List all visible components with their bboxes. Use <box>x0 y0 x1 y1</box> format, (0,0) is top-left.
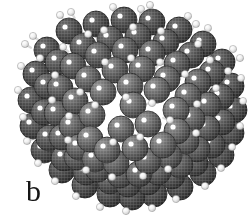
hydrogen-atom <box>239 97 246 104</box>
hydrogen-atom <box>237 74 244 81</box>
specular-highlight <box>170 124 175 129</box>
specular-highlight <box>114 122 119 127</box>
specular-highlight <box>68 94 73 99</box>
silicon-atom <box>144 77 170 103</box>
specular-highlight <box>215 55 220 60</box>
hydrogen-atom <box>157 27 164 34</box>
hydrogen-atom <box>59 43 66 50</box>
specular-highlight <box>159 35 164 40</box>
hydrogen-atom <box>192 20 199 27</box>
specular-highlight <box>184 48 189 53</box>
specular-highlight <box>89 17 94 22</box>
hydrogen-atom <box>84 30 91 37</box>
hydrogen-atom <box>192 129 199 136</box>
specular-highlight <box>91 48 96 53</box>
silicon-atom <box>135 111 161 137</box>
specular-highlight <box>24 93 29 98</box>
hydrogen-atom <box>64 136 71 143</box>
hydrogen-atom <box>137 5 144 12</box>
hydrogen-atom <box>96 203 103 210</box>
specular-highlight <box>65 119 70 124</box>
hydrogen-atom <box>23 137 30 144</box>
specular-highlight <box>96 85 101 90</box>
specular-highlight <box>145 15 150 20</box>
figure-panel-b: b <box>0 0 252 224</box>
hydrogen-atom <box>72 192 79 199</box>
specular-highlight <box>141 117 146 122</box>
specular-highlight <box>26 119 31 124</box>
hydrogen-atom <box>76 88 83 95</box>
specular-highlight <box>100 143 105 148</box>
silicon-atom <box>90 79 116 105</box>
hydrogen-atom <box>166 116 173 123</box>
specular-highlight <box>128 141 133 146</box>
specular-highlight <box>118 43 123 48</box>
hydrogen-atom <box>82 166 89 173</box>
specular-highlight <box>81 72 86 77</box>
hydrogen-atom <box>148 204 155 211</box>
hydrogen-atom <box>229 45 236 52</box>
hydrogen-atom <box>201 182 208 189</box>
hydrogen-atom <box>172 195 179 202</box>
specular-highlight <box>40 79 45 84</box>
specular-highlight <box>205 66 210 71</box>
hydrogen-atom <box>224 67 231 74</box>
hydrogen-atom <box>204 24 211 31</box>
specular-highlight <box>37 105 42 110</box>
hydrogen-atom <box>108 173 115 180</box>
specular-highlight <box>50 106 55 111</box>
hydrogen-atom <box>193 100 200 107</box>
hydrogen-atom <box>56 11 63 18</box>
hydrogen-atom <box>156 58 163 65</box>
hydrogen-atom <box>184 12 191 19</box>
specular-highlight <box>62 24 67 29</box>
panel-label: b <box>26 176 41 206</box>
hydrogen-atom <box>139 172 146 179</box>
specular-highlight <box>156 138 161 143</box>
hydrogen-atom <box>21 40 28 47</box>
hydrogen-atom <box>194 40 201 47</box>
specular-highlight <box>135 62 140 67</box>
specular-highlight <box>51 55 56 60</box>
hydrogen-atom <box>122 207 129 214</box>
specular-highlight <box>117 13 122 18</box>
specular-highlight <box>108 63 113 68</box>
hydrogen-atom <box>91 101 98 108</box>
specular-highlight <box>123 79 128 84</box>
specular-highlight <box>172 23 177 28</box>
hydrogen-atom <box>109 138 116 145</box>
specular-highlight <box>150 83 155 88</box>
hydrogen-atom <box>14 86 21 93</box>
specular-highlight <box>88 152 93 157</box>
specular-highlight <box>170 57 175 62</box>
specular-highlight <box>76 39 81 44</box>
hydrogen-atom <box>127 54 134 61</box>
specular-highlight <box>160 72 165 77</box>
hydrogen-atom <box>136 133 143 140</box>
specular-highlight <box>53 81 58 86</box>
hydrogen-atom <box>29 32 36 39</box>
hydrogen-atom <box>19 113 26 120</box>
hydrogen-atom <box>101 58 108 65</box>
specular-highlight <box>201 98 206 103</box>
hydrogen-atom <box>51 71 58 78</box>
specular-highlight <box>42 131 47 136</box>
hydrogen-atom <box>146 1 153 8</box>
hydrogen-atom <box>34 159 41 166</box>
hydrogen-atom <box>236 54 243 61</box>
hydrogen-atom <box>36 54 43 61</box>
hydrogen-atom <box>236 122 243 129</box>
specular-highlight <box>169 103 174 108</box>
hydrogen-atom <box>206 56 213 63</box>
hydrogen-atom <box>217 164 224 171</box>
specular-highlight <box>224 79 229 84</box>
hydrogen-atom <box>228 143 235 150</box>
specular-highlight <box>181 89 186 94</box>
hydrogen-atom <box>65 112 72 119</box>
hydrogen-atom <box>17 62 24 69</box>
hydrogen-atom <box>109 3 116 10</box>
hydrogen-atom <box>164 165 171 172</box>
specular-highlight <box>29 67 34 72</box>
specular-highlight <box>191 75 196 80</box>
specular-highlight <box>66 59 71 64</box>
